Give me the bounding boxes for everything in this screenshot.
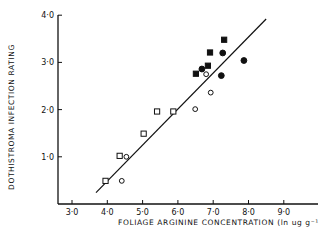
open-circle-marker	[204, 72, 209, 77]
open-square-marker	[103, 178, 108, 183]
filled-square-marker	[193, 71, 198, 76]
open-square-marker	[117, 153, 122, 158]
regression-line-path	[96, 19, 266, 193]
x-tick-label: 9·0	[277, 208, 290, 217]
axis-ticks: 3·04·05·06·07·08·09·01·02·03·04·0	[41, 11, 290, 217]
open-circle-marker	[124, 154, 129, 159]
scatter-chart: 3·04·05·06·07·08·09·01·02·03·04·0 FOLIAG…	[0, 0, 319, 237]
filled-circle-marker	[199, 66, 205, 72]
filled-square-marker	[207, 50, 212, 55]
open-circle-marker	[193, 107, 198, 112]
y-tick-label: 4·0	[41, 11, 54, 20]
open-square-marker	[141, 131, 146, 136]
x-tick-label: 5·0	[136, 208, 149, 217]
x-tick-label: 7·0	[207, 208, 220, 217]
regression-line	[96, 19, 266, 193]
filled-circle-marker	[241, 58, 247, 64]
x-tick-label: 3·0	[66, 208, 79, 217]
open-circle-marker	[208, 90, 213, 95]
y-tick-label: 3·0	[41, 58, 54, 67]
open-circle-marker	[119, 178, 124, 183]
x-axis-title: FOLIAGE ARGININE CONCENTRATION (ln ug g⁻…	[118, 218, 319, 227]
x-tick-label: 8·0	[242, 208, 255, 217]
filled-circle-marker	[218, 73, 224, 79]
y-tick-label: 1·0	[41, 153, 54, 162]
axes	[58, 15, 318, 204]
open-square-marker	[171, 109, 176, 114]
open-square-marker	[154, 109, 159, 114]
x-tick-label: 4·0	[101, 208, 114, 217]
y-axis-title: DOTHISTROMA INFECTION RATING	[7, 44, 16, 190]
filled-circle-marker	[220, 50, 226, 56]
filled-square-marker	[222, 37, 227, 42]
x-tick-label: 6·0	[172, 208, 185, 217]
filled-square-marker	[205, 63, 210, 68]
data-points	[103, 37, 247, 183]
y-tick-label: 2·0	[41, 106, 54, 115]
